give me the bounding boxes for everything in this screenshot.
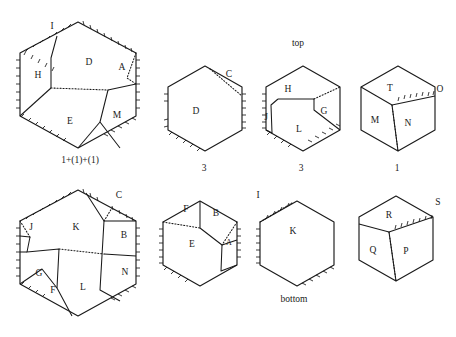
dotted-cut: [314, 87, 340, 99]
caption-hex3: 3: [299, 163, 304, 173]
region-label-F: F: [50, 285, 55, 295]
hexagon-outline: [361, 66, 435, 151]
region-label-I: I: [50, 21, 53, 31]
region-label-Q: Q: [370, 245, 377, 255]
region-label-F: F: [183, 204, 188, 214]
hexagon-outline: [359, 196, 433, 281]
caption-bottom-label: bottom: [281, 294, 309, 304]
region-label-D: D: [193, 106, 200, 116]
region-label-E: E: [67, 116, 73, 126]
region-label-T: T: [387, 83, 393, 93]
region-label-S: S: [435, 197, 440, 207]
hexagon-outline: [260, 201, 334, 286]
region-labels: T O M N: [371, 83, 444, 128]
region-label-N: N: [405, 118, 412, 128]
region-label-B: B: [121, 230, 127, 240]
region-label-L: L: [80, 282, 86, 292]
hexagon-outline: [20, 22, 136, 148]
region-label-O: O: [437, 84, 444, 94]
hexagon-outline: [266, 66, 340, 151]
region-label-N: N: [122, 267, 129, 277]
region-labels: I H D A E M: [35, 21, 126, 126]
hatch-marks: [164, 94, 246, 151]
region-label-J: J: [29, 222, 33, 232]
hatch-marks: [16, 21, 140, 141]
region-labels: C J K B G F L N: [29, 190, 128, 295]
dotted-cut: [389, 232, 396, 281]
internal-cuts: [20, 36, 136, 148]
top-second-hexagon[interactable]: C D: [164, 66, 246, 151]
bottom-left-hexagon[interactable]: C J K B G F L N: [16, 189, 140, 316]
internal-cuts: [266, 99, 340, 133]
top-fourth-hexagon[interactable]: T O M N: [361, 66, 444, 151]
region-label-B: B: [213, 208, 219, 218]
caption-hex4: 1: [395, 163, 400, 173]
region-label-H: H: [35, 70, 42, 80]
region-label-K: K: [290, 226, 297, 236]
region-label-D: D: [86, 57, 93, 67]
region-labels: C D: [193, 69, 233, 116]
region-label-H: H: [285, 84, 292, 94]
region-label-C: C: [116, 190, 122, 200]
region-label-E: E: [189, 239, 195, 249]
region-label-A: A: [226, 238, 232, 247]
region-label-C: C: [226, 69, 232, 79]
hatch-marks: [16, 189, 140, 300]
caption-hex1: 1+(1)+(1): [61, 155, 99, 166]
region-label-J: J: [264, 112, 268, 122]
region-labels: H J G L: [264, 84, 327, 134]
bottom-second-hexagon[interactable]: F B E A: [159, 201, 241, 286]
top-third-hexagon[interactable]: H J G L: [262, 66, 340, 151]
region-label-L: L: [296, 124, 302, 134]
region-label-R: R: [386, 210, 393, 220]
region-label-A: A: [119, 62, 126, 72]
hatch-marks: [395, 215, 432, 229]
caption-top-label: top: [292, 38, 304, 48]
hexagon-dissection-figure: I H D A E M C D: [0, 0, 456, 337]
hexagon-outline: [20, 190, 136, 316]
region-label-P: P: [403, 246, 408, 256]
region-label-K: K: [73, 222, 80, 232]
dotted-cuts: [20, 208, 112, 254]
top-left-hexagon[interactable]: I H D A E M: [16, 21, 140, 148]
bottom-third-hexagon[interactable]: I K: [256, 190, 334, 286]
bottom-fourth-hexagon[interactable]: R S Q P: [359, 196, 441, 281]
region-label-G: G: [36, 268, 43, 278]
region-label-G: G: [321, 106, 328, 116]
caption-hex2: 3: [202, 163, 207, 173]
region-label-I: I: [256, 190, 259, 200]
region-label-M: M: [113, 110, 122, 120]
region-label-M: M: [371, 115, 380, 125]
